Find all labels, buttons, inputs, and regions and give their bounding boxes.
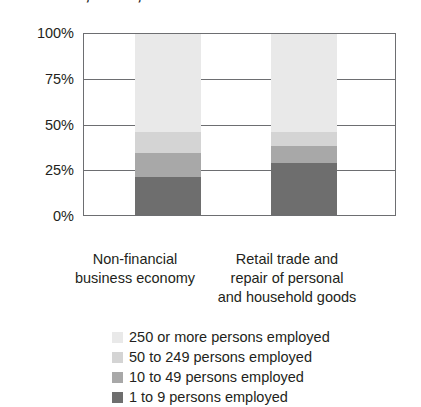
- x-axis-label-line: business economy: [70, 269, 200, 288]
- bar-segment[interactable]: [135, 177, 201, 215]
- bar-segment[interactable]: [271, 146, 337, 162]
- legend-item[interactable]: 10 to 49 persons employed: [112, 367, 412, 387]
- bar-segment[interactable]: [135, 132, 201, 154]
- x-axis-category-label: Non-financialbusiness economy: [70, 250, 200, 288]
- legend-swatch: [112, 392, 123, 403]
- legend-item-label: 250 or more persons employed: [129, 329, 330, 345]
- bar-segment[interactable]: [271, 163, 337, 215]
- legend-item-label: 50 to 249 persons employed: [129, 349, 312, 365]
- x-axis-label-line: repair of personal: [212, 269, 362, 288]
- legend-swatch: [112, 332, 123, 343]
- legend-item[interactable]: 50 to 249 persons employed: [112, 347, 412, 367]
- plot-frame: [83, 33, 396, 216]
- x-axis-label-line: Retail trade and: [212, 250, 362, 269]
- legend-item[interactable]: 1 to 9 persons employed: [112, 387, 412, 407]
- bar-segment[interactable]: [135, 34, 201, 132]
- chart-legend: 250 or more persons employed50 to 249 pe…: [112, 327, 412, 407]
- y-axis-tick-label: 50%: [22, 117, 74, 133]
- chart-plot-area: 100%75%50%25%0%: [0, 0, 421, 245]
- x-axis-category-label: Retail trade andrepair of personaland ho…: [212, 250, 362, 307]
- legend-item[interactable]: 250 or more persons employed: [112, 327, 412, 347]
- gridline: [84, 170, 395, 171]
- gridline: [84, 125, 395, 126]
- legend-item-label: 10 to 49 persons employed: [129, 369, 304, 385]
- legend-swatch: [112, 372, 123, 383]
- bar-column[interactable]: [135, 34, 201, 215]
- bar-segment[interactable]: [271, 34, 337, 132]
- bar-segment[interactable]: [271, 132, 337, 146]
- gridline: [84, 79, 395, 80]
- legend-item-label: 1 to 9 persons employed: [129, 389, 288, 405]
- legend-swatch: [112, 352, 123, 363]
- y-axis-tick-label: 25%: [22, 162, 74, 178]
- bar-column[interactable]: [271, 34, 337, 215]
- x-axis-label-line: and household goods: [212, 288, 362, 307]
- y-axis-tick-label: 0%: [22, 208, 74, 224]
- bar-segment[interactable]: [135, 153, 201, 177]
- y-axis-tick-label: 100%: [22, 25, 74, 41]
- x-axis-label-line: Non-financial: [70, 250, 200, 269]
- y-axis: 100%75%50%25%0%: [22, 0, 74, 245]
- y-axis-tick-label: 75%: [22, 71, 74, 87]
